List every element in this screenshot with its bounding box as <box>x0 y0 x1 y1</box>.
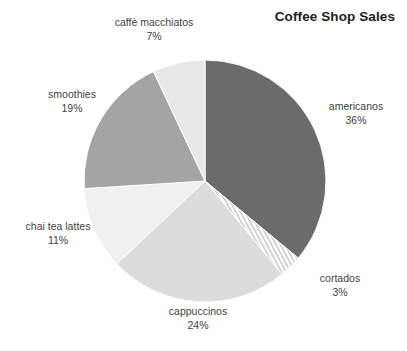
slice-label-cortados: cortados 3% <box>296 272 384 299</box>
slice-label-value: 3% <box>296 286 384 300</box>
slice-label-name: caffè macchiatos <box>98 16 210 30</box>
slice-label-smoothies: smoothies 19% <box>22 88 122 115</box>
slice-label-name: chai tea lattes <box>6 220 110 234</box>
slice-label-cappuccinos: cappuccinos 24% <box>140 305 256 332</box>
slice-label-name: cappuccinos <box>140 305 256 319</box>
slice-label-americanos: americanos 36% <box>310 100 402 127</box>
slice-label-value: 36% <box>310 114 402 128</box>
slice-label-value: 7% <box>98 30 210 44</box>
slice-label-name: americanos <box>310 100 402 114</box>
slice-label-value: 19% <box>22 102 122 116</box>
slice-label-caffe-macchiatos: caffè macchiatos 7% <box>98 16 210 43</box>
pie-chart-figure: Coffee Shop Sales caffè macchiatos 7% sm… <box>0 0 407 351</box>
slice-label-value: 11% <box>6 234 110 248</box>
slice-label-name: smoothies <box>22 88 122 102</box>
slice-label-chai-tea-lattes: chai tea lattes 11% <box>6 220 110 247</box>
slice-label-value: 24% <box>140 319 256 333</box>
slice-label-name: cortados <box>296 272 384 286</box>
